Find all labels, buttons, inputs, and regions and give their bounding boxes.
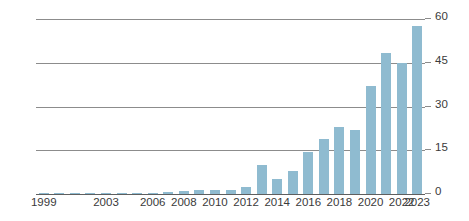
bar[interactable] [288,171,298,194]
bar[interactable] [319,139,329,194]
y-tick-mark [425,149,431,150]
x-tick-label-2006: 2006 [140,197,166,209]
bar[interactable] [272,179,282,194]
x-tick-label-1999: 1999 [31,197,57,209]
bar-slot [161,19,177,194]
bar-slot [83,19,99,194]
bar[interactable] [163,192,173,194]
bar-slot [192,19,208,194]
bar[interactable] [194,190,204,194]
bar-slot [269,19,285,194]
bar-slot [238,19,254,194]
y-tick-label: 30 [435,99,448,111]
bar[interactable] [54,193,64,194]
bar[interactable] [179,191,189,195]
bar[interactable] [132,193,142,194]
x-tick-label-2003: 2003 [93,197,119,209]
bar-slot [98,19,114,194]
bar-slot [378,19,394,194]
bar-slot [129,19,145,194]
bar[interactable] [39,193,49,194]
bar[interactable] [381,53,391,194]
y-tick-mark [425,193,431,194]
bar-slot [316,19,332,194]
y-tick-label: 0 [435,186,441,198]
bar[interactable] [350,130,360,194]
y-tick-label: 45 [435,55,448,67]
bar-slot [332,19,348,194]
bar[interactable] [226,190,236,194]
axis-baseline [36,194,425,195]
x-tick-label-2012: 2012 [233,197,259,209]
x-axis: 1999200320062008201020122014201620182020… [36,197,425,215]
bar-chart: 015304560 199920032006200820102012201420… [0,0,469,221]
y-tick-label: 60 [435,11,448,23]
x-tick-label-2014: 2014 [264,197,290,209]
bar[interactable] [148,193,158,194]
bar-series [36,19,425,194]
bar-slot [301,19,317,194]
y-tick-mark [425,106,431,107]
y-tick-mark [425,62,431,63]
bar[interactable] [397,63,407,194]
bar-slot [36,19,52,194]
bar[interactable] [366,86,376,194]
bar-slot [145,19,161,194]
bar[interactable] [117,193,127,194]
bar[interactable] [303,152,313,194]
bar-slot [394,19,410,194]
bar-slot [67,19,83,194]
x-tick-label-2010: 2010 [202,197,228,209]
bar-slot [176,19,192,194]
x-tick-label-2008: 2008 [171,197,197,209]
x-tick-label-2023: 2023 [404,197,430,209]
bar[interactable] [85,193,95,194]
bar-slot [363,19,379,194]
y-axis: 015304560 [425,0,469,221]
bar-slot [347,19,363,194]
bar-slot [207,19,223,194]
bar-slot [410,19,426,194]
bar[interactable] [70,193,80,194]
y-tick-mark [425,18,431,19]
x-tick-label-2020: 2020 [358,197,384,209]
x-tick-label-2018: 2018 [327,197,353,209]
bar[interactable] [257,165,267,194]
bar-slot [114,19,130,194]
bar-slot [285,19,301,194]
bar[interactable] [241,187,251,194]
bar-slot [254,19,270,194]
bar-slot [223,19,239,194]
bar[interactable] [412,26,422,194]
bar-slot [52,19,68,194]
bar[interactable] [101,193,111,194]
x-tick-label-2016: 2016 [296,197,322,209]
plot-area [36,19,425,194]
y-tick-label: 15 [435,142,448,154]
bar[interactable] [210,190,220,194]
bar[interactable] [334,127,344,194]
